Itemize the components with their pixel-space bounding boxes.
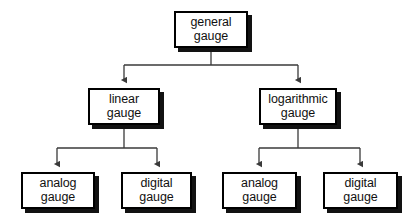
node-logarithmic-gauge: logarithmic gauge	[259, 88, 337, 125]
node-logarithmic-digital-gauge: digital gauge	[323, 172, 398, 209]
node-linear-analog-gauge: analog gauge	[21, 172, 95, 209]
node-general-gauge: general gauge	[174, 11, 248, 48]
node-logarithmic-analog-gauge: analog gauge	[222, 172, 297, 209]
node-label-line2: gauge	[139, 191, 173, 205]
node-label-line2: gauge	[281, 107, 315, 121]
edge-linear-to-children	[57, 128, 157, 164]
node-label-line2: gauge	[41, 191, 75, 205]
node-label-line1: digital	[141, 177, 173, 191]
node-label-line2: gauge	[343, 191, 377, 205]
edge-general-to-children	[124, 51, 298, 80]
node-linear-digital-gauge: digital gauge	[121, 172, 192, 209]
node-label-line1: analog	[40, 177, 77, 191]
node-label-line1: digital	[345, 177, 377, 191]
node-label-line2: gauge	[107, 107, 141, 121]
node-label-line1: general	[191, 16, 232, 30]
node-label-line2: gauge	[194, 30, 228, 44]
node-label-line1: logarithmic	[268, 93, 327, 107]
diagram-canvas: general gauge linear gauge logarithmic g…	[0, 0, 415, 222]
node-label-line1: linear	[109, 93, 139, 107]
node-label-line1: analog	[241, 177, 278, 191]
edge-logarithmic-to-children	[259, 128, 360, 164]
node-linear-gauge: linear gauge	[88, 88, 160, 125]
node-label-line2: gauge	[242, 191, 276, 205]
